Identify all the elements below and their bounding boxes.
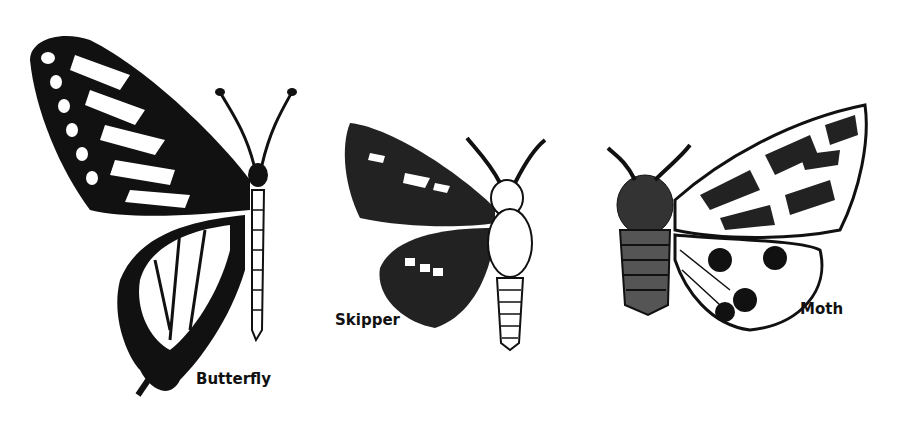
skipper-label: Skipper	[335, 311, 400, 329]
moth-label: Moth	[800, 300, 843, 318]
butterfly-illustration: Butterfly	[20, 30, 310, 400]
moth-illustration: Moth	[600, 100, 880, 340]
skipper-illustration: Skipper	[335, 118, 560, 358]
butterfly-icon	[20, 30, 310, 400]
butterfly-label: Butterfly	[196, 370, 271, 388]
